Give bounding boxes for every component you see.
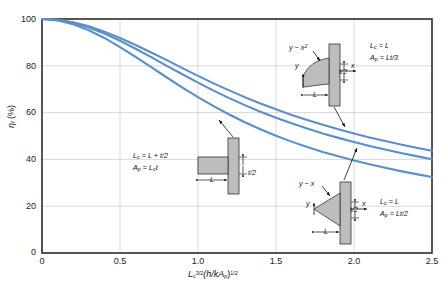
inset-parabolic-dim-t: t/2 [339, 68, 347, 75]
inset-parabolic-profile: y ~ x2 [289, 44, 307, 51]
inset-triangular-lc: Lc = L [380, 198, 399, 207]
x-tick-2-0: 2.0 [341, 257, 367, 266]
inset-rect-ap: Ap = Lct [133, 164, 158, 173]
inset-triangular-lc-eq: = L [387, 197, 399, 206]
y-axis-label: ηf (%) [6, 105, 16, 128]
inset-parabolic-axis-y: y [295, 62, 299, 69]
inset-triangular-axis-y: y [306, 200, 310, 207]
y-tick-40: 40 [10, 155, 36, 164]
x-axis-mid: (h/kA [203, 269, 224, 279]
inset-parabolic-dim-L: L [313, 91, 317, 98]
y-axis-eta-sub: f [10, 122, 16, 124]
inset-rect-ap-tail: t [156, 163, 158, 172]
inset-triangular-axis-x: x [362, 200, 366, 207]
inset-rect-lc-eq: = L + t/2 [140, 151, 168, 160]
x-tick-0: 0 [29, 257, 55, 266]
inset-parabolic-ap-eq: = Lt/3 [378, 53, 398, 62]
inset-rect-dim-L: L [210, 176, 214, 183]
y-tick-0: 0 [10, 248, 36, 257]
inset-rect-lc: Lc = L + t/2 [133, 152, 168, 161]
inset-parabolic-ap: Ap = Lt/3 [370, 54, 398, 63]
inset-rect-ap-eq: = L [141, 163, 153, 172]
inset-triangular-ap: Ap = Lt/2 [380, 210, 408, 219]
inset-triangular-profile: y ~ x [299, 180, 314, 187]
inset-parabolic-axis-x: x [351, 62, 355, 69]
inset-parabolic-lc-eq: = L [377, 41, 389, 50]
inset-parabolic-lc: Lc = L [370, 42, 389, 51]
x-tick-1-5: 1.5 [263, 257, 289, 266]
inset-parabolic-profile-sup: 2 [304, 43, 307, 49]
inset-triangular-ap-eq: = Lt/2 [388, 209, 408, 218]
x-tick-0-5: 0.5 [107, 257, 133, 266]
inset-rect-dim-t: t/2 [248, 169, 256, 176]
x-axis-sup2: 1/2 [230, 270, 238, 276]
y-tick-80: 80 [10, 62, 36, 71]
y-axis-unit: (%) [6, 105, 16, 122]
inset-parabolic-profile-text: y ~ x [289, 43, 304, 52]
inset-triangular-dim-L: L [324, 228, 328, 235]
fin-efficiency-figure: 100 80 60 40 20 0 0 0.5 1.0 1.5 2.0 2.5 … [0, 0, 448, 292]
x-axis-label: Lc3/2(h/kAp)1/2 [188, 270, 238, 280]
y-tick-20: 20 [10, 202, 36, 211]
inset-triangular-dim-t: t/2 [350, 206, 358, 213]
y-tick-100: 100 [10, 15, 36, 24]
y-axis-eta: η [6, 123, 16, 128]
x-tick-1-0: 1.0 [185, 257, 211, 266]
x-tick-2-5: 2.5 [419, 257, 445, 266]
